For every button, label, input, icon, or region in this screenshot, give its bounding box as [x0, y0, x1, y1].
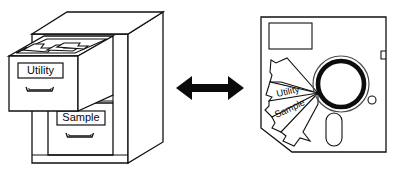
closed-drawer-label-text: Sample	[62, 111, 99, 123]
floppy-disk	[261, 17, 386, 152]
figure-root: Utility Sample	[0, 0, 401, 180]
index-hole	[368, 96, 376, 104]
double-headed-arrow	[176, 76, 244, 100]
floppy-label-area	[269, 23, 312, 49]
open-drawer-label-text: Utility	[27, 64, 54, 76]
arrow-body-and-heads	[176, 76, 244, 100]
analogy-diagram: Utility Sample	[0, 0, 401, 180]
file-cabinet	[9, 12, 163, 163]
shutter-slot	[326, 113, 342, 146]
cabinet-side-face	[128, 12, 163, 163]
